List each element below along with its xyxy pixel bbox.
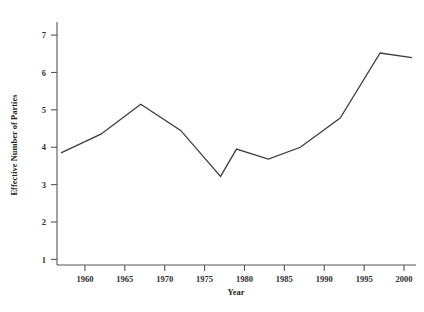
y-tick-label: 4 (42, 142, 47, 152)
x-tick-label: 1965 (116, 274, 133, 284)
y-axis-title: Effective Number of Parties (9, 94, 19, 196)
x-tick-label: 1995 (356, 274, 373, 284)
data-series-group (61, 53, 412, 176)
x-tick-label: 1985 (276, 274, 293, 284)
x-tick-label: 2000 (396, 274, 413, 284)
y-axis-ticks: 1234567 (42, 30, 57, 264)
y-tick-label: 6 (42, 68, 46, 78)
x-tick-label: 1975 (196, 274, 213, 284)
x-tick-label: 1980 (236, 274, 253, 284)
x-axis-title: Year (228, 287, 245, 297)
y-tick-label: 3 (42, 180, 46, 190)
y-tick-label: 2 (42, 217, 46, 227)
x-axis-ticks: 196019651970197519801985199019952000 (76, 265, 412, 284)
chart-figure: 1234567 19601965197019751980198519901995… (0, 0, 424, 312)
y-tick-label: 5 (42, 105, 46, 115)
series-line (61, 53, 412, 176)
y-tick-label: 7 (42, 30, 47, 40)
line-chart: 1234567 19601965197019751980198519901995… (0, 0, 424, 312)
y-tick-label: 1 (42, 255, 46, 265)
x-tick-label: 1990 (316, 274, 333, 284)
x-tick-label: 1960 (76, 274, 93, 284)
x-tick-label: 1970 (156, 274, 173, 284)
